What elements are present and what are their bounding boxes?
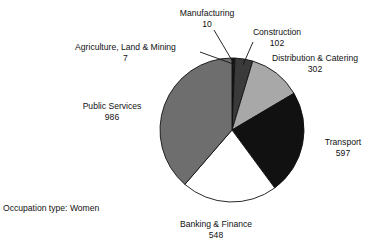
slice-label-public-services-name: Public Services: [83, 101, 142, 111]
slice-label-public-services-value: 986: [64, 112, 160, 123]
slice-label-distribution-catering-value: 302: [256, 64, 374, 75]
slice-label-public-services: Public Services 986: [64, 101, 160, 122]
figure-caption: Occupation type: Women: [3, 203, 99, 213]
slice-label-transport-name: Transport: [325, 137, 361, 147]
slice-label-agriculture-land-mining-value: 7: [57, 53, 194, 64]
slice-label-transport-value: 597: [312, 148, 374, 159]
slice-label-manufacturing-name: Manufacturing: [180, 8, 234, 18]
figure-canvas: Manufacturing 10 Construction 102 Distri…: [0, 0, 377, 247]
slice-label-construction-name: Construction: [253, 27, 301, 37]
slice-label-transport: Transport 597: [312, 137, 374, 158]
slice-label-banking-finance: Banking & Finance 548: [160, 219, 272, 240]
slice-label-distribution-catering-name: Distribution & Catering: [272, 53, 358, 63]
slice-label-manufacturing: Manufacturing 10: [152, 8, 262, 29]
slice-label-construction: Construction 102: [235, 27, 319, 48]
pie-slices: [160, 58, 304, 202]
slice-label-agriculture-land-mining-name: Agriculture, Land & Mining: [75, 42, 176, 52]
slice-label-banking-finance-value: 548: [160, 230, 272, 241]
slice-label-construction-value: 102: [235, 38, 319, 49]
slice-label-banking-finance-name: Banking & Finance: [180, 219, 252, 229]
slice-label-distribution-catering: Distribution & Catering 302: [256, 53, 374, 74]
slice-label-agriculture-land-mining: Agriculture, Land & Mining 7: [57, 42, 194, 63]
